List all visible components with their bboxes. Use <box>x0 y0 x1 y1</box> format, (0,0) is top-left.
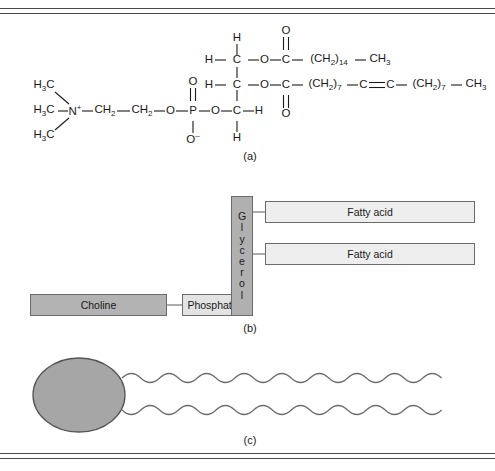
figure-phospholipid-structure: H3C H3C H3C N+ CH2 CH2 O P O O– O C H H … <box>0 0 495 471</box>
panel-c-graphics <box>0 0 495 471</box>
bottom-border-rule-outer <box>0 453 495 454</box>
bottom-border-rule-inner <box>0 458 495 459</box>
hydrocarbon-tail-upper <box>122 374 442 383</box>
polar-head-ellipse <box>33 358 125 432</box>
caption-panel-c: (c) <box>230 434 270 446</box>
hydrocarbon-tail-lower <box>122 406 442 415</box>
